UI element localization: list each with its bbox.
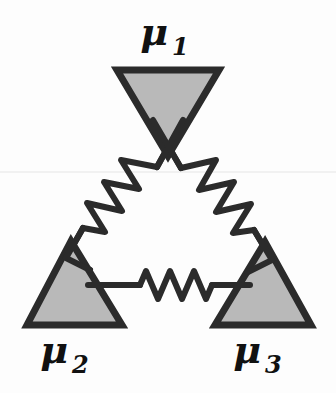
label-node-3: μ 3 — [233, 327, 282, 379]
label-node-1-subscript: 1 — [172, 32, 189, 61]
spring-right-coil — [181, 160, 254, 233]
label-node-3-symbol: μ — [233, 327, 261, 372]
label-node-1-symbol: μ — [140, 9, 168, 54]
label-node-2: μ 2 — [40, 327, 89, 379]
label-node-2-subscript: 2 — [71, 350, 89, 379]
label-node-2-symbol: μ — [40, 327, 68, 372]
label-node-1: μ 1 — [140, 9, 189, 61]
triangle-coupling-diagram: μ 1 μ 2 μ 3 — [0, 0, 336, 393]
spring-left-coil — [83, 160, 157, 232]
figure-container: μ 1 μ 2 μ 3 — [0, 0, 336, 393]
spring-bottom-coil — [140, 271, 212, 299]
spring-bottom — [88, 271, 250, 299]
label-node-3-subscript: 3 — [265, 350, 282, 379]
